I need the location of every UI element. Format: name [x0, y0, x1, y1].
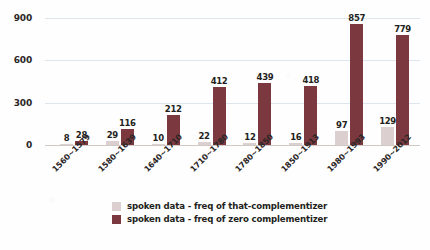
y-tick-label-300: 300 — [0, 98, 32, 108]
x-label-cell: 1850~1913 — [280, 147, 326, 195]
y-tick-label-600: 600 — [0, 55, 32, 65]
bar-chart: 0300600900 82829116102122241212439164189… — [0, 0, 430, 250]
bar-value-label: 779 — [394, 24, 411, 34]
bar-group: 129779 — [372, 18, 418, 145]
bar-value-label: 857 — [348, 13, 365, 23]
bar-group: 29116 — [97, 18, 143, 145]
chart-legend: spoken data - freq of that-complementize… — [112, 201, 327, 224]
bar-value-label: 97 — [336, 120, 347, 130]
bar-group: 97857 — [326, 18, 372, 145]
bar-group: 12439 — [235, 18, 281, 145]
x-label-cell: 1990~2012 — [372, 147, 418, 195]
bar[interactable] — [396, 35, 409, 145]
x-axis-labels: 1560~15791580~16391640~17101710~17801780… — [45, 147, 420, 195]
x-label-cell: 1580~1639 — [97, 147, 143, 195]
bar[interactable] — [152, 144, 165, 145]
x-label-cell: 1560~1579 — [51, 147, 97, 195]
bar-slot: 10 — [152, 18, 165, 145]
bar-slot: 97 — [335, 18, 348, 145]
legend-item[interactable]: spoken data - freq of that-complementize… — [112, 201, 327, 211]
bar-slot: 439 — [258, 18, 271, 145]
bar-value-label: 418 — [302, 75, 319, 85]
bar-slot: 779 — [396, 18, 409, 145]
bar-group: 828 — [51, 18, 97, 145]
bar-value-label: 212 — [165, 104, 182, 114]
bar[interactable] — [335, 131, 348, 145]
bar[interactable] — [60, 144, 73, 145]
x-label-cell: 1640~1710 — [143, 147, 189, 195]
x-label-cell: 1710~1780 — [189, 147, 235, 195]
bar-slot: 29 — [106, 18, 119, 145]
bar[interactable] — [381, 127, 394, 145]
bar-value-label: 129 — [379, 116, 396, 126]
bar-slot: 129 — [381, 18, 394, 145]
bar-group: 16418 — [280, 18, 326, 145]
y-tick-label-0: 0 — [0, 140, 32, 150]
legend-swatch-icon — [112, 215, 121, 224]
bar-group: 22412 — [189, 18, 235, 145]
bar[interactable] — [106, 141, 119, 145]
x-label-cell: 1980~1993 — [326, 147, 372, 195]
bar-groups: 828291161021222412124391641897857129779 — [45, 18, 420, 145]
bar-value-label: 439 — [257, 72, 274, 82]
bar[interactable] — [198, 142, 211, 145]
bar-value-label: 12 — [244, 132, 255, 142]
plot-area: 0300600900 82829116102122241212439164189… — [45, 18, 420, 145]
legend-swatch-icon — [112, 202, 121, 211]
bar-slot: 212 — [167, 18, 180, 145]
bar-slot: 857 — [350, 18, 363, 145]
bar[interactable] — [350, 24, 363, 145]
bar-slot: 418 — [304, 18, 317, 145]
bar-value-label: 16 — [290, 132, 301, 142]
y-tick-label-900: 900 — [0, 13, 32, 23]
bar-slot: 22 — [198, 18, 211, 145]
bar-value-label: 10 — [153, 133, 164, 143]
legend-item[interactable]: spoken data - freq of zero complementize… — [112, 214, 327, 224]
legend-label: spoken data - freq of zero complementize… — [127, 214, 327, 224]
bar-slot: 8 — [60, 18, 73, 145]
bar-slot: 116 — [121, 18, 134, 145]
legend-label: spoken data - freq of that-complementize… — [127, 201, 327, 211]
bar-slot: 16 — [289, 18, 302, 145]
bar-value-label: 29 — [107, 130, 118, 140]
bar-group: 10212 — [143, 18, 189, 145]
bar-value-label: 8 — [64, 133, 70, 143]
bar-slot: 28 — [75, 18, 88, 145]
bar-slot: 412 — [213, 18, 226, 145]
bar-value-label: 412 — [211, 76, 228, 86]
bar-slot: 12 — [243, 18, 256, 145]
bar[interactable] — [289, 143, 302, 145]
bar-value-label: 116 — [119, 118, 136, 128]
x-label-cell: 1780~1850 — [235, 147, 281, 195]
bar-value-label: 22 — [198, 131, 209, 141]
